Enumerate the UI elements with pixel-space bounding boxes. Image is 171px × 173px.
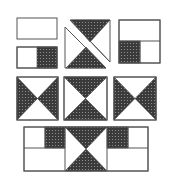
row-1 [17,18,160,68]
row-2 [17,77,156,120]
hourglass-side-shaded-right [114,77,156,120]
shaded-quarter [119,41,140,63]
assembled-strip-with-center-hourglass [24,127,148,171]
right-shaded-square [107,127,128,148]
hourglass-top-bottom-shaded [64,77,107,120]
row-3 [24,127,148,171]
plain-rectangle [17,18,57,39]
half-shaded-rectangle [17,47,57,68]
quilt-diagram [0,0,171,173]
left-shaded-square [45,127,65,148]
square-with-quarter-shaded [119,20,160,63]
shaded-half [37,47,57,68]
hourglass-side-shaded-left [17,77,58,120]
split-hourglass-square [65,20,110,68]
